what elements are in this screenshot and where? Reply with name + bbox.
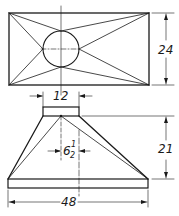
technical-drawing (0, 0, 179, 216)
dimension-offset-numerator: 1 (71, 141, 76, 149)
dimension-12-label: 12 (53, 90, 68, 102)
dimension-24-label: 24 (158, 44, 173, 56)
neck-collar (43, 107, 79, 116)
dimension-48-label: 48 (61, 196, 76, 208)
base-plate (8, 179, 148, 188)
front-view (8, 107, 174, 207)
top-view (9, 6, 174, 95)
dimension-21-label: 21 (158, 143, 173, 155)
dimension-offset-denominator: 2 (70, 152, 75, 160)
